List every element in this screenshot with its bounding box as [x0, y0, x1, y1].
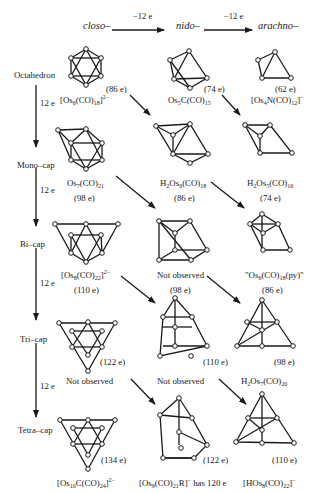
cluster-r1c2	[245, 125, 292, 153]
cluster-r4c2	[236, 394, 294, 443]
cluster-r3c0	[59, 322, 115, 371]
cluster-r4c0	[60, 420, 115, 469]
cluster-r2c2	[250, 214, 290, 250]
cluster-r1c0	[58, 129, 102, 169]
cluster-r2c0	[55, 224, 118, 262]
diagram-graphics	[0, 0, 316, 493]
atom-nodes	[53, 47, 297, 472]
cluster-r1c1	[156, 124, 208, 163]
cluster-r0c2	[258, 52, 291, 78]
cluster-r0c0	[71, 49, 101, 85]
cluster-r0c1	[170, 51, 207, 88]
cluster-r2c1	[159, 221, 207, 260]
cluster-r3c1	[160, 298, 207, 356]
